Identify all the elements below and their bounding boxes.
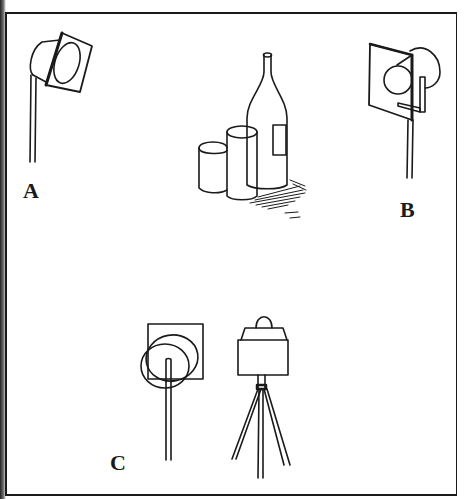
- floodlight-c-icon: [141, 324, 203, 460]
- illustration: [0, 0, 465, 499]
- label-b: B: [400, 197, 415, 223]
- camera-tripod-icon: [232, 317, 290, 478]
- spotlight-b-icon: [369, 44, 440, 178]
- label-c: C: [110, 450, 126, 476]
- label-a: A: [23, 178, 39, 204]
- still-life-icon: [199, 53, 306, 218]
- spotlight-a-icon: [30, 33, 92, 162]
